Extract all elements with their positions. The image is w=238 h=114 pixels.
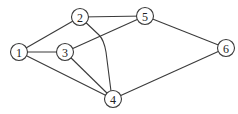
edge-3-4 [65, 52, 113, 99]
edge-4-6 [113, 48, 226, 99]
nodes: 1 2 3 4 5 6 [11, 8, 235, 108]
node-6: 6 [218, 40, 235, 57]
edge-2-5 [80, 16, 145, 17]
node-2-label: 2 [77, 11, 83, 25]
node-3-label: 3 [62, 46, 68, 60]
edge-2-4 [80, 17, 112, 99]
node-5-label: 5 [142, 10, 148, 24]
node-2: 2 [72, 9, 89, 26]
node-1: 1 [11, 44, 28, 61]
node-4: 4 [105, 91, 122, 108]
node-4-label: 4 [110, 93, 116, 107]
edges [19, 16, 226, 99]
node-1-label: 1 [16, 46, 22, 60]
edge-5-6 [145, 16, 226, 48]
node-3: 3 [57, 44, 74, 61]
graph-diagram: 1 2 3 4 5 6 [0, 0, 238, 114]
node-6-label: 6 [223, 42, 229, 56]
node-5: 5 [137, 8, 154, 25]
